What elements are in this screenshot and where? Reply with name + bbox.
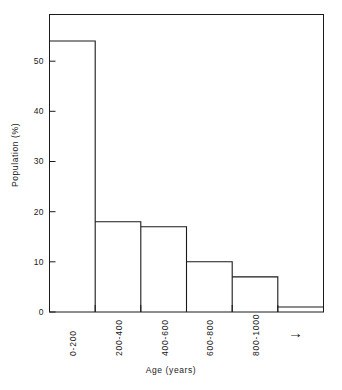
- y-tick-label-20: 20: [18, 207, 44, 217]
- y-tick-label-10: 10: [18, 257, 44, 267]
- y-tick-label-0: 0: [18, 307, 44, 317]
- x-tick-label-800-1000: 800-1000: [251, 314, 261, 356]
- continuation-arrow-icon: →: [288, 325, 303, 340]
- y-tick-label-40: 40: [18, 106, 44, 116]
- histogram-figure: 0 10 20 30 40 50 Population (%) 0-200 20…: [0, 0, 342, 390]
- x-tick-label-400-600: 400-600: [160, 319, 170, 356]
- y-tick-label-50: 50: [18, 56, 44, 66]
- x-tick-label-600-800: 600-800: [205, 319, 215, 356]
- y-tick-label-30: 30: [18, 156, 44, 166]
- x-tick-label-200-400: 200-400: [114, 319, 124, 356]
- y-axis-title: Population (%): [10, 110, 20, 200]
- x-axis-title: Age (years): [0, 365, 342, 375]
- x-tick-label-0-200: 0-200: [68, 330, 78, 356]
